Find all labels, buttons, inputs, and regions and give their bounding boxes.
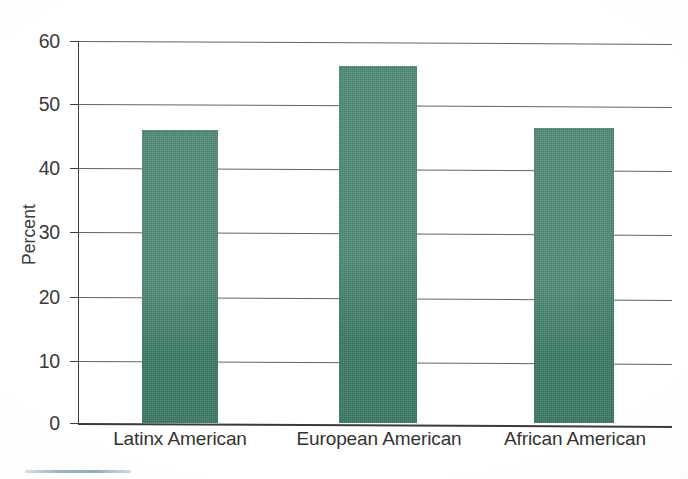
bar-chart: Percent 60 50 40 30 20 10 0 Latinx A <box>0 0 688 479</box>
y-tick-label-40: 40 <box>14 157 60 180</box>
y-tick-label-50: 50 <box>14 93 60 116</box>
y-tick-label-20: 20 <box>14 286 60 309</box>
x-tick-label-european-american: European American <box>290 428 468 450</box>
y-tick-label-10: 10 <box>14 350 60 373</box>
bar-european-american[interactable] <box>339 66 417 423</box>
y-tick-label-60: 60 <box>14 30 60 53</box>
y-tick-label-0: 0 <box>14 412 60 435</box>
page-scan-rule <box>25 470 131 473</box>
bar-african-american[interactable] <box>534 128 614 423</box>
x-tick-label-african-american: African American <box>492 428 658 450</box>
bar-latinx-american[interactable] <box>142 130 218 423</box>
x-tick-label-latinx-american: Latinx American <box>100 428 260 450</box>
gridline-60 <box>78 41 672 45</box>
chart-screenshot: Percent 60 50 40 30 20 10 0 Latinx A <box>0 0 688 479</box>
y-tick-label-30: 30 <box>14 221 60 244</box>
